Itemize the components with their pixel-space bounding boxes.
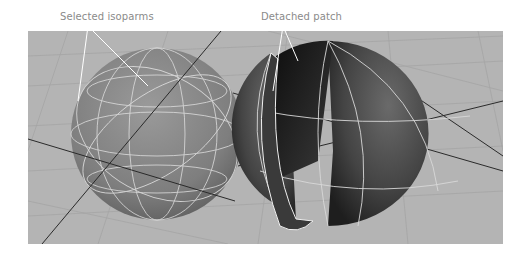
left-sphere — [28, 31, 261, 244]
annotation-selected-isoparms: Selected isoparms — [60, 11, 154, 22]
right-sphere — [232, 41, 503, 230]
annotation-detached-patch: Detached patch — [261, 11, 342, 22]
scene-render — [28, 31, 503, 244]
maya-viewport[interactable] — [28, 31, 503, 244]
